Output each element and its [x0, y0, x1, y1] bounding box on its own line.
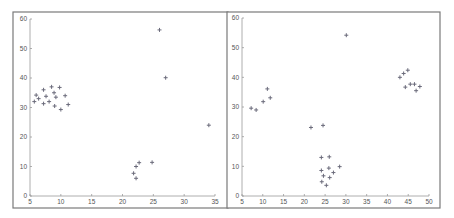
x-tick-label: 50 — [425, 198, 433, 205]
y-tick-label: 20 — [232, 133, 240, 140]
y-tick-label: 0 — [235, 192, 239, 199]
x-tick-label: 25 — [150, 198, 158, 205]
y-tick-label: 40 — [232, 74, 240, 81]
x-tick-label: 15 — [280, 198, 288, 205]
y-tick-label: 60 — [20, 15, 28, 22]
x-tick-label: 40 — [384, 198, 392, 205]
y-tick-label: 30 — [20, 104, 28, 111]
x-tick-label: 5 — [240, 198, 244, 205]
scatter-chart-left: 01020304050605101520253035 — [13, 12, 228, 208]
x-tick-label: 15 — [88, 198, 96, 205]
y-tick-label: 50 — [20, 45, 28, 52]
y-tick-label: 40 — [20, 74, 28, 81]
x-tick-label: 30 — [342, 198, 350, 205]
x-tick-label: 20 — [119, 198, 127, 205]
chart-left: 0102030405060510152025303501020304050605… — [0, 0, 454, 218]
x-tick-label: 10 — [57, 198, 65, 205]
chart-frame — [13, 12, 228, 208]
y-tick-label: 0 — [23, 192, 27, 199]
scatter-plots: 0102030405060510152025303501020304050605… — [0, 0, 454, 218]
y-tick-label: 10 — [232, 163, 240, 170]
y-tick-label: 10 — [20, 163, 28, 170]
y-tick-label: 20 — [20, 133, 28, 140]
scatter-chart-right: 01020304050605101520253035404550 — [227, 12, 440, 208]
chart-frame — [227, 12, 440, 208]
x-tick-label: 30 — [181, 198, 189, 205]
y-tick-label: 50 — [232, 44, 240, 51]
x-tick-label: 35 — [211, 198, 219, 205]
y-tick-label: 30 — [232, 103, 240, 110]
y-tick-label: 60 — [232, 14, 240, 21]
x-tick-label: 45 — [405, 198, 413, 205]
x-tick-label: 5 — [28, 198, 32, 205]
x-tick-label: 25 — [321, 198, 329, 205]
x-tick-label: 35 — [363, 198, 371, 205]
x-tick-label: 10 — [259, 198, 267, 205]
x-tick-label: 20 — [301, 198, 309, 205]
